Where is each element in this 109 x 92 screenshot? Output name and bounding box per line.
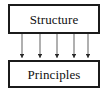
node-principles[interactable]: Principles bbox=[8, 60, 100, 88]
structure-principles-diagram: Structure Principles bbox=[0, 0, 109, 92]
node-structure[interactable]: Structure bbox=[8, 4, 100, 34]
node-structure-label: Structure bbox=[30, 13, 79, 26]
node-principles-label: Principles bbox=[28, 68, 81, 81]
edge-group bbox=[22, 34, 88, 58]
